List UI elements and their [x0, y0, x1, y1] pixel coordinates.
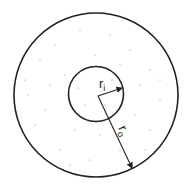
stipple-fill — [24, 29, 160, 165]
outer-radius-label: ro — [113, 123, 132, 139]
annulus-diagram: ri ro — [0, 0, 187, 190]
inner-circle — [69, 67, 124, 122]
outer-circle — [14, 13, 178, 177]
outer-radius-arrow — [98, 96, 132, 168]
inner-radius-label: ri — [99, 76, 105, 93]
